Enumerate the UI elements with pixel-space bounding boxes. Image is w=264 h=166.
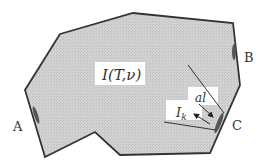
port-b <box>232 44 236 60</box>
port-b-label: B <box>244 50 254 65</box>
port-c-label: C <box>232 118 242 133</box>
area-element-label: al <box>195 91 206 105</box>
diagram-canvas: I(T,ν) al Ik A B C <box>0 0 264 166</box>
intensity-subscript: k <box>181 112 186 122</box>
region-label: I(T,ν) <box>101 66 141 84</box>
enclosure-diagram: I(T,ν) al Ik A B C <box>0 0 264 166</box>
port-a-label: A <box>12 119 23 134</box>
